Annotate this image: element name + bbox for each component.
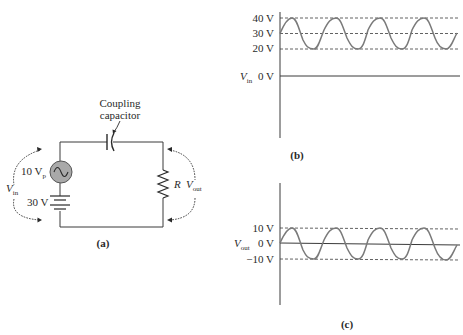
graph-c-tick-minus10: −10 V — [246, 253, 274, 265]
graph-b-tick-40: 40 V — [253, 12, 275, 24]
vin-label: Vin — [6, 182, 19, 197]
graph-c-tick-0: 0 V — [258, 237, 274, 249]
caption-c: (c) — [341, 318, 354, 331]
graph-b-tick-0: 0 V — [258, 70, 274, 82]
caption-b: (b) — [290, 149, 304, 162]
vout-label: Vout — [186, 178, 202, 193]
graph-b-ylabel: Vin — [240, 70, 253, 85]
capacitor-label-line2: capacitor — [100, 109, 141, 121]
vin-arrows — [14, 150, 40, 220]
caption-a: (a) — [97, 237, 110, 250]
vin-arrow-head-top — [37, 147, 42, 152]
capacitor-icon — [107, 133, 114, 151]
dc-source-label: 30 V — [27, 196, 49, 208]
ac-source-label: 10 Vp — [21, 165, 47, 180]
graph-c: 10 V 0 V −10 V Vout (c) — [234, 183, 460, 331]
graph-b-tick-20: 20 V — [253, 42, 275, 54]
resistor-icon — [158, 170, 168, 198]
graph-c-tick-10: 10 V — [253, 222, 275, 234]
graph-b: 40 V 30 V 20 V 0 V Vin (b) — [240, 12, 460, 162]
diagram-canvas: Coupling capacitor 10 Vp 30 V R Vin Vout… — [0, 0, 463, 335]
vin-arrow-head-bottom — [38, 218, 43, 223]
capacitor-pointer-arrow — [113, 121, 121, 134]
resistor-label: R — [173, 178, 181, 190]
battery-icon — [50, 196, 70, 209]
graph-b-tick-30: 30 V — [253, 27, 275, 39]
circuit-schematic — [60, 142, 163, 227]
ac-source-icon — [50, 161, 72, 183]
vout-arrow-head-top — [167, 147, 172, 152]
vout-arrow-head-bottom — [167, 218, 172, 223]
graph-c-ylabel: Vout — [234, 237, 250, 252]
capacitor-label-line1: Coupling — [100, 97, 141, 109]
